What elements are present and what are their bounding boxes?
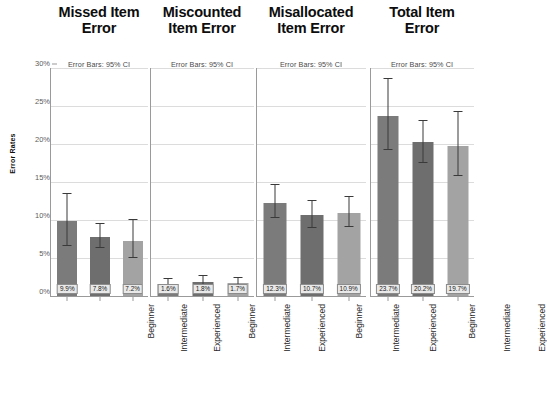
error-bar-cap [63,193,72,194]
panel-title-line2: Error [370,20,474,36]
x-axis-tick-mark [168,296,169,301]
error-bar-cap [418,120,427,121]
bar-slot: 9.9% [51,68,84,296]
y-axis-tick-label: 5% [18,250,50,258]
error-bar [311,201,312,228]
bar-data-label: 9.9% [57,284,78,294]
error-bar-cap [128,257,137,258]
error-bar [99,224,100,248]
error-bar-cap [384,149,393,150]
error-bar-cap [384,78,393,79]
panel-title-line1: Missed Item [59,4,140,20]
bar-data-label: 12.3% [263,284,287,294]
x-axis-tick-mark [422,296,423,301]
bar-data-label: 10.9% [337,284,361,294]
error-bar [67,194,68,246]
y-axis-tick-label: 30% [18,60,50,68]
error-bar [348,197,349,227]
bar-data-label: 20.2% [411,284,435,294]
x-axis-tick-mark [348,296,349,301]
error-bar-cap [307,200,316,201]
error-bar-cap [95,247,104,248]
panel-title: Total ItemError [370,4,474,36]
error-bar-cap [344,196,353,197]
panel-title-line2: Item Error [150,20,254,36]
panel-title-line1: Total Item [389,4,454,20]
x-axis-category-label: Intermediate [502,304,512,380]
bar-group: 9.9%7.8%7.2% [51,68,148,296]
error-bar-cap [453,111,462,112]
x-axis-tick-mark [67,296,68,301]
plot-area: 9.9%7.8%7.2% [50,68,148,297]
panel-title-line1: Miscounted [163,4,242,20]
error-bar [132,220,133,258]
chart-panel: MisallocatedItem ErrorError Bars: 95% CI… [256,4,366,393]
error-bar-cap [233,277,242,278]
x-axis-tick-mark [237,296,238,301]
error-bar-cap [418,162,427,163]
bar-slot: 12.3% [257,68,294,296]
error-bar-cap [128,219,137,220]
bar-data-label: 23.7% [376,284,400,294]
error-bar-cap [307,227,316,228]
x-axis-tick-mark [202,296,203,301]
bar-slot: 23.7% [371,68,406,296]
bar-slot: 1.7% [220,68,255,296]
x-axis-tick-mark [457,296,458,301]
y-axis-tick-group: 0%5%10%15%20%25%30% [18,64,50,292]
panel-title-line2: Item Error [256,20,366,36]
bar-group: 23.7%20.2%19.7% [371,68,474,296]
bar-slot: 7.8% [84,68,117,296]
x-axis-category-label: Beginner [354,304,364,380]
bar-slot: 1.6% [151,68,186,296]
error-bar [388,79,389,150]
bar-slot: 1.8% [186,68,221,296]
bar-data-label: 10.7% [300,284,324,294]
bar-group: 12.3%10.7%10.9% [257,68,366,296]
x-axis-tick-mark [311,296,312,301]
error-bar [275,185,276,218]
error-bar [457,112,458,176]
chart-panel: MiscountedItem ErrorError Bars: 95% CI1.… [150,4,254,393]
panel-title-line1: Misallocated [269,4,354,20]
y-axis-title: Error Rates [9,94,16,214]
bar-data-label: 1.8% [193,284,214,294]
x-axis-category-label: Experienced [537,304,547,380]
bar-slot: 19.7% [440,68,475,296]
bar-data-label: 7.2% [122,284,143,294]
bar-group: 1.6%1.8%1.7% [151,68,254,296]
x-axis-category-label: Beginner [467,304,477,380]
bar-slot: 10.9% [330,68,367,296]
error-bar-cap [198,275,207,276]
chart-panel: Total ItemErrorError Bars: 95% CI23.7%20… [370,4,474,393]
x-axis-tick-mark [275,296,276,301]
error-bar-cap [271,184,280,185]
x-axis-tick-mark [388,296,389,301]
panel-title: Missed ItemError [50,4,148,36]
bar-data-label: 1.7% [227,284,248,294]
y-axis-tick-label: 0% [18,288,50,296]
plot-area: 23.7%20.2%19.7% [370,68,474,297]
y-axis-tick-label: 25% [18,98,50,106]
plot-area: 12.3%10.7%10.9% [256,68,366,297]
x-axis-tick-mark [99,296,100,301]
x-axis-tick-mark [132,296,133,301]
y-axis-tick-label: 10% [18,212,50,220]
y-axis-tick-label: 20% [18,136,50,144]
bar-slot: 7.2% [116,68,149,296]
bar-slot: 10.7% [294,68,331,296]
error-bar-cap [95,223,104,224]
error-bar-cap [344,226,353,227]
error-bar-cap [164,278,173,279]
bar-slot: 20.2% [406,68,441,296]
bar-data-label: 7.8% [90,284,111,294]
panel-title: MisallocatedItem Error [256,4,366,36]
y-axis-tick-label: 15% [18,174,50,182]
error-bar-cap [63,245,72,246]
panel-title: MiscountedItem Error [150,4,254,36]
error-bar-cap [453,175,462,176]
bar[interactable] [412,142,433,296]
bar-data-label: 1.6% [158,284,179,294]
error-bar-cap [271,217,280,218]
